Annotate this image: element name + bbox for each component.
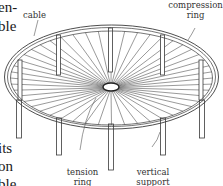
label-cable: cable: [23, 10, 46, 20]
label-compression-ring-line1: compression: [168, 0, 223, 10]
label-compression-ring-line2: ring: [168, 10, 223, 20]
vertical-supports-lower: [17, 100, 205, 170]
tension-ring: [103, 83, 119, 91]
label-vertical-support-line2: support: [128, 177, 178, 186]
body-text-fragment-4: on: [0, 157, 13, 176]
body-text-fragment-5: ble,: [0, 175, 20, 186]
roof-diagram: [0, 0, 223, 186]
body-text-fragment-2: ble: [0, 17, 16, 36]
body-text-fragment-1: en-: [0, 0, 17, 17]
label-tension-ring-line1: tension: [60, 167, 105, 177]
label-tension-ring-line2: ring: [60, 177, 105, 186]
body-text-fragment-3: its: [0, 139, 12, 158]
label-vertical-support-line1: vertical: [128, 167, 178, 177]
